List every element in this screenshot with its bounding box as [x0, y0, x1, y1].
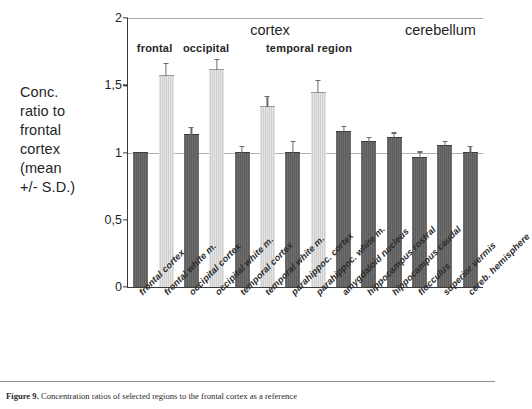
error-bar — [267, 97, 268, 106]
error-bar-cap — [392, 132, 397, 133]
error-bar — [394, 134, 395, 138]
y-tick-label: 1,5 — [105, 78, 122, 92]
y-axis-title-line: +/- S.D.) — [20, 178, 100, 197]
error-bar — [191, 128, 192, 135]
caption-divider — [0, 381, 495, 382]
error-bar — [165, 64, 166, 76]
error-bar-cap — [442, 141, 447, 142]
error-bar — [242, 147, 243, 152]
error-bar — [216, 60, 217, 71]
figure-number: Figure 9. — [6, 391, 39, 401]
error-bar-cap — [189, 127, 194, 128]
error-bar-cap — [468, 146, 473, 147]
error-bar-cap — [417, 151, 422, 152]
y-tick-label: 2 — [115, 11, 122, 25]
error-bar-cap — [164, 63, 169, 64]
y-tick-label: 0 — [115, 280, 122, 294]
error-bar — [318, 81, 319, 93]
y-axis-title-line: frontal — [20, 121, 100, 140]
bar — [133, 152, 148, 288]
error-bar — [444, 142, 445, 146]
error-bar-cap — [290, 141, 295, 142]
figure-caption: Figure 9. Concentration ratios of select… — [6, 391, 493, 402]
y-tick-label: 0,5 — [105, 213, 122, 227]
y-axis-title-line: (mean — [20, 159, 100, 178]
y-axis-title-line: ratio to — [20, 102, 100, 121]
error-bar — [292, 142, 293, 153]
bar-slot — [184, 18, 199, 287]
bar-slot — [159, 18, 174, 287]
error-bar-cap — [316, 80, 321, 81]
error-bar-cap — [214, 59, 219, 60]
error-bar — [368, 138, 369, 142]
error-bar — [470, 147, 471, 152]
bar-slot — [133, 18, 148, 287]
x-axis-category-labels: frontal cortexfrontal white m.occipital … — [128, 290, 495, 385]
error-bar-cap — [265, 96, 270, 97]
y-axis-title-line: Conc. — [20, 83, 100, 102]
y-axis-title-line: cortex — [20, 140, 100, 159]
error-bar-cap — [366, 137, 371, 138]
bar-slot — [463, 18, 478, 287]
error-bar — [343, 127, 344, 132]
error-bar-cap — [341, 126, 346, 127]
caption-text: Concentration ratios of selected regions… — [41, 391, 297, 401]
error-bar-cap — [240, 146, 245, 147]
error-bar — [419, 153, 420, 158]
y-tick-label: 1 — [115, 146, 122, 160]
y-axis-title: Conc. ratio to frontal cortex (mean +/- … — [20, 83, 100, 197]
